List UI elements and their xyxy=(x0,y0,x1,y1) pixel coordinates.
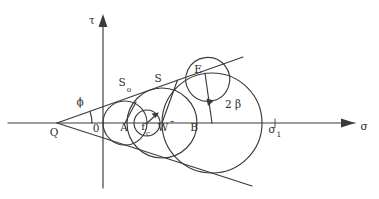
sigma-axis-label: σ xyxy=(360,120,367,132)
double-beta-label: 2 β xyxy=(225,98,241,110)
phi-angle-label: ϕ xyxy=(76,96,83,108)
principal-stress-subscript: 1 xyxy=(277,130,282,139)
initial-cohesion-label: S xyxy=(118,76,125,88)
center-label-w: W xyxy=(158,121,169,133)
origin-label: 0 xyxy=(93,122,100,134)
center-label-a: A xyxy=(119,121,128,133)
compressive-strength-subscript: c xyxy=(146,129,150,138)
apex-label-q: Q xyxy=(50,126,59,138)
initial-cohesion-subscript: o xyxy=(127,85,132,94)
mohr-circle-figure: τ σ Q ϕ 0 A S o S E f c W ˉ B 2 β σ 1 xyxy=(0,0,379,199)
cohesion-label: S xyxy=(154,72,161,84)
center-label-w-prime: ˉ xyxy=(169,119,174,131)
center-label-b: B xyxy=(190,121,198,133)
tau-axis-label: τ xyxy=(89,14,95,26)
tangent-point-label-e: E xyxy=(194,63,202,75)
principal-stress-label: σ xyxy=(268,123,275,135)
figure-background xyxy=(0,0,379,199)
